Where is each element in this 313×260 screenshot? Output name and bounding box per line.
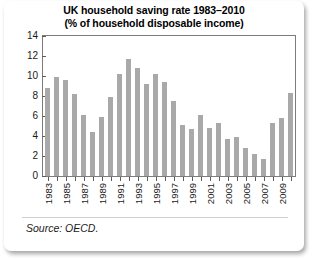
y-axis-tick-label: 12 — [8, 51, 38, 61]
x-axis-tick-mark — [192, 177, 193, 181]
bar — [225, 139, 230, 176]
bar — [261, 159, 266, 176]
bar — [99, 117, 104, 176]
y-axis-tick-label: 4 — [8, 131, 38, 141]
bar — [72, 94, 77, 176]
x-axis-tick-mark — [129, 177, 130, 181]
x-axis-tick-mark — [84, 177, 85, 181]
bar — [270, 123, 275, 176]
y-axis-tick-label: 8 — [8, 91, 38, 101]
x-axis-tick-label: 1999 — [187, 183, 198, 204]
x-axis-tick-mark — [174, 177, 175, 181]
x-axis-tick-label: 2003 — [223, 183, 234, 204]
x-axis-tick-mark — [156, 177, 157, 181]
x-axis-tick-mark — [57, 177, 58, 181]
x-axis-tick-mark — [228, 177, 229, 181]
x-axis-tick-mark — [93, 177, 94, 181]
x-axis-tick-label: 2009 — [277, 183, 288, 204]
x-axis-tick-mark — [66, 177, 67, 181]
y-axis-tick-mark — [42, 176, 46, 177]
x-axis-tick-mark — [246, 177, 247, 181]
bar — [279, 118, 284, 176]
y-axis-tick-label: 0 — [8, 171, 38, 181]
bar — [189, 129, 194, 176]
y-axis-tick-label: 6 — [8, 111, 38, 121]
bar — [207, 128, 212, 176]
bar-series — [43, 36, 295, 176]
bar — [117, 74, 122, 176]
bar — [81, 115, 86, 176]
x-axis-tick-mark — [219, 177, 220, 181]
x-axis-tick-mark — [273, 177, 274, 181]
bar — [288, 93, 293, 176]
x-axis-tick-mark — [282, 177, 283, 181]
chart-card: UK household saving rate 1983–2010 (% of… — [4, 1, 304, 251]
x-axis-tick-mark — [165, 177, 166, 181]
x-axis-tick-mark — [147, 177, 148, 181]
bar — [180, 125, 185, 176]
x-axis-tick-label: 2007 — [259, 183, 270, 204]
bar — [90, 132, 95, 176]
bar — [126, 59, 131, 176]
bar — [108, 97, 113, 176]
bar — [216, 123, 221, 176]
bar — [144, 84, 149, 176]
chart-title-block: UK household saving rate 1983–2010 (% of… — [4, 4, 304, 30]
bar — [162, 82, 167, 176]
y-axis-tick-label: 14 — [8, 31, 38, 41]
bar — [135, 68, 140, 176]
x-axis-tick-mark — [264, 177, 265, 181]
x-axis-tick-label: 1995 — [151, 183, 162, 204]
x-axis-tick-label: 2001 — [205, 183, 216, 204]
bar — [63, 80, 68, 176]
x-axis-tick-label: 1985 — [61, 183, 72, 204]
page-title: UK household saving rate 1983–2010 — [4, 4, 304, 17]
x-axis-tick-mark — [291, 177, 292, 181]
bar — [45, 88, 50, 176]
bar — [198, 115, 203, 176]
y-axis-tick-label: 10 — [8, 71, 38, 81]
bar — [243, 148, 248, 176]
bar — [171, 101, 176, 176]
x-axis-tick-mark — [201, 177, 202, 181]
x-axis-tick-mark — [138, 177, 139, 181]
x-axis-tick-label: 2005 — [241, 183, 252, 204]
x-axis-tick-mark — [237, 177, 238, 181]
divider — [22, 217, 288, 218]
x-axis-tick-mark — [255, 177, 256, 181]
x-axis-tick-label: 1991 — [115, 183, 126, 204]
y-axis-tick-label: 2 — [8, 151, 38, 161]
x-axis-tick-mark — [183, 177, 184, 181]
x-axis-tick-label: 1993 — [133, 183, 144, 204]
y-axis-labels: 02468101214 — [4, 1, 38, 251]
x-axis-tick-mark — [120, 177, 121, 181]
x-axis-tick-label: 1987 — [79, 183, 90, 204]
source-note: Source: OECD. — [26, 222, 98, 234]
bar — [252, 154, 257, 176]
x-axis-tick-label: 1983 — [43, 183, 54, 204]
bar — [153, 74, 158, 176]
bar — [54, 77, 59, 176]
x-axis-tick-mark — [210, 177, 211, 181]
x-axis-tick-label: 1997 — [169, 183, 180, 204]
x-axis-tick-mark — [102, 177, 103, 181]
x-axis-tick-mark — [48, 177, 49, 181]
bar — [234, 137, 239, 176]
x-axis-tick-mark — [75, 177, 76, 181]
x-axis-tick-mark — [111, 177, 112, 181]
x-axis-tick-label: 1989 — [97, 183, 108, 204]
chart-subtitle: (% of household disposable income) — [4, 17, 304, 30]
